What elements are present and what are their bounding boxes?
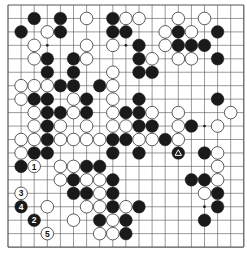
black-stone[interactable] (211, 53, 224, 66)
black-stone[interactable] (107, 200, 120, 213)
black-stone[interactable] (54, 26, 67, 39)
black-stone[interactable] (67, 53, 80, 66)
black-stone[interactable] (159, 133, 172, 146)
black-stone[interactable] (54, 79, 67, 92)
white-stone[interactable] (107, 214, 120, 227)
white-stone[interactable] (28, 133, 41, 146)
white-stone[interactable] (159, 39, 172, 52)
black-stone[interactable] (41, 147, 54, 160)
black-stone[interactable] (133, 93, 146, 106)
black-stone[interactable] (15, 26, 28, 39)
black-stone[interactable] (41, 120, 54, 133)
white-stone[interactable] (28, 120, 41, 133)
white-stone[interactable] (28, 53, 41, 66)
white-stone[interactable] (107, 79, 120, 92)
white-stone[interactable] (80, 12, 93, 25)
black-stone[interactable] (120, 214, 133, 227)
black-stone[interactable] (107, 147, 120, 160)
black-stone[interactable] (172, 26, 185, 39)
white-stone[interactable] (28, 79, 41, 92)
black-stone[interactable] (15, 160, 28, 173)
white-stone[interactable] (80, 133, 93, 146)
white-stone[interactable] (211, 147, 224, 160)
black-stone[interactable] (211, 200, 224, 213)
white-stone[interactable] (120, 12, 133, 25)
black-stone[interactable] (107, 133, 120, 146)
white-stone[interactable] (80, 200, 93, 213)
black-stone[interactable] (133, 39, 146, 52)
white-stone[interactable] (93, 200, 106, 213)
white-stone[interactable] (80, 39, 93, 52)
black-stone[interactable] (80, 160, 93, 173)
black-stone[interactable] (41, 106, 54, 119)
white-stone[interactable] (80, 174, 93, 187)
white-stone[interactable] (172, 120, 185, 133)
black-stone[interactable] (107, 12, 120, 25)
black-stone[interactable] (120, 227, 133, 240)
black-stone[interactable] (120, 26, 133, 39)
black-stone[interactable] (107, 187, 120, 200)
white-stone[interactable] (107, 120, 120, 133)
black-stone[interactable] (41, 133, 54, 146)
white-stone[interactable] (133, 133, 146, 146)
white-stone[interactable] (146, 133, 159, 146)
go-board-grid[interactable]: 13425 (0, 0, 247, 258)
black-stone[interactable] (172, 147, 185, 160)
black-stone[interactable] (67, 66, 80, 79)
black-stone[interactable] (67, 79, 80, 92)
white-stone[interactable] (80, 53, 93, 66)
black-stone[interactable] (107, 26, 120, 39)
black-stone[interactable] (120, 133, 133, 146)
black-stone[interactable] (93, 79, 106, 92)
black-stone[interactable] (146, 66, 159, 79)
white-stone[interactable] (28, 39, 41, 52)
white-stone[interactable] (198, 187, 211, 200)
black-stone[interactable] (67, 187, 80, 200)
black-stone[interactable] (67, 174, 80, 187)
black-stone[interactable] (172, 39, 185, 52)
white-stone[interactable] (67, 106, 80, 119)
black-stone[interactable] (185, 174, 198, 187)
black-stone[interactable] (133, 147, 146, 160)
black-stone[interactable] (198, 174, 211, 187)
black-stone[interactable] (54, 106, 67, 119)
white-stone[interactable] (107, 66, 120, 79)
black-stone[interactable] (93, 160, 106, 173)
white-stone[interactable] (159, 26, 172, 39)
white-stone[interactable] (211, 120, 224, 133)
white-stone[interactable] (54, 160, 67, 173)
black-stone[interactable] (133, 66, 146, 79)
white-stone[interactable] (67, 93, 80, 106)
white-stone[interactable] (172, 106, 185, 119)
white-stone[interactable] (28, 106, 41, 119)
white-stone[interactable] (146, 53, 159, 66)
white-stone[interactable] (80, 120, 93, 133)
black-stone[interactable] (211, 26, 224, 39)
white-stone[interactable]: 5 (41, 227, 54, 240)
white-stone[interactable] (172, 53, 185, 66)
white-stone[interactable] (15, 133, 28, 146)
black-stone[interactable] (198, 39, 211, 52)
white-stone[interactable] (41, 79, 54, 92)
white-stone[interactable] (15, 79, 28, 92)
white-stone[interactable] (146, 106, 159, 119)
black-stone[interactable] (198, 147, 211, 160)
white-stone[interactable] (211, 174, 224, 187)
white-stone[interactable] (15, 147, 28, 160)
black-stone[interactable] (41, 93, 54, 106)
white-stone[interactable] (107, 93, 120, 106)
white-stone[interactable] (41, 26, 54, 39)
white-stone[interactable] (224, 106, 237, 119)
black-stone[interactable] (185, 39, 198, 52)
white-stone[interactable] (211, 160, 224, 173)
black-stone[interactable] (198, 214, 211, 227)
white-stone[interactable] (93, 133, 106, 146)
white-stone[interactable] (67, 214, 80, 227)
black-stone[interactable] (80, 106, 93, 119)
black-stone[interactable] (185, 120, 198, 133)
black-stone[interactable] (133, 120, 146, 133)
white-stone[interactable] (93, 174, 106, 187)
black-stone[interactable] (28, 12, 41, 25)
white-stone[interactable] (185, 26, 198, 39)
white-stone[interactable] (54, 120, 67, 133)
